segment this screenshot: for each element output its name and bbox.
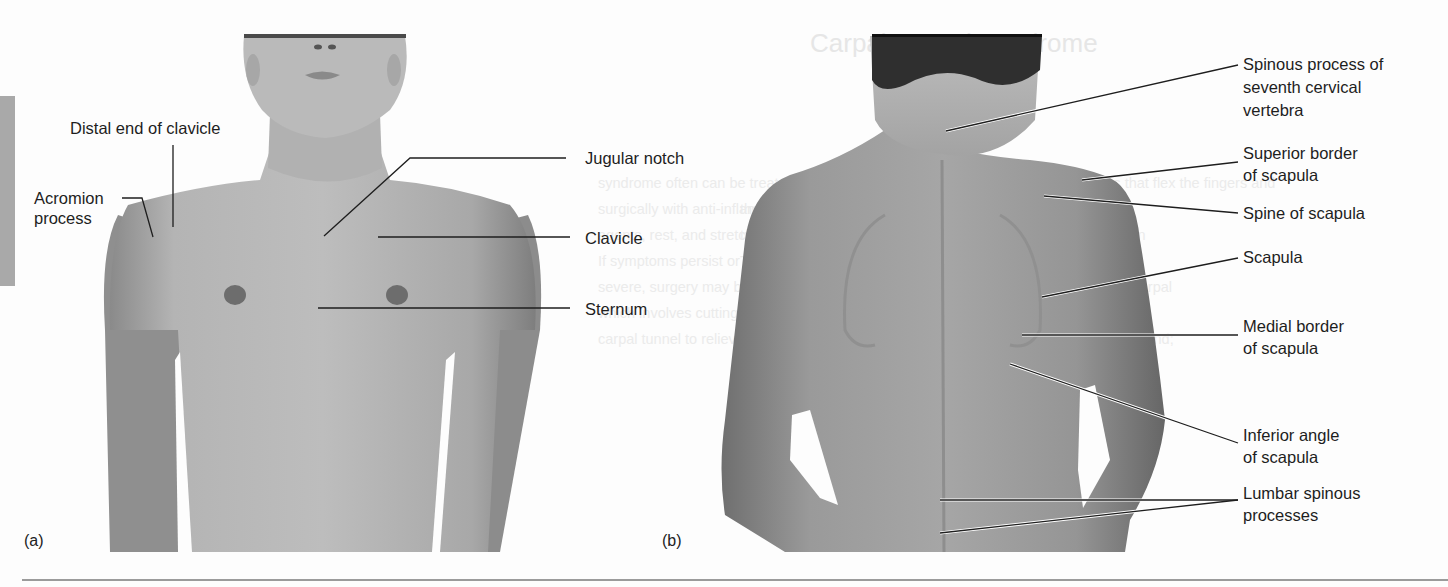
- bottom-divider-rule: [22, 579, 1448, 581]
- label-clavicle: Clavicle: [585, 228, 643, 248]
- label-superior-border-scapula: Superior border of scapula: [1243, 142, 1358, 186]
- label-spinous-process-c7: Spinous process of seventh cervical vert…: [1243, 53, 1383, 122]
- label-lumbar-spinous-processes: Lumbar spinous processes: [1243, 482, 1360, 526]
- label-spine-of-scapula: Spine of scapula: [1243, 203, 1365, 223]
- label-jugular-notch: Jugular notch: [585, 148, 684, 168]
- label-medial-border-scapula: Medial border of scapula: [1243, 315, 1344, 359]
- label-scapula: Scapula: [1243, 247, 1303, 267]
- anatomy-figure: [0, 0, 1448, 587]
- label-distal-end-of-clavicle: Distal end of clavicle: [70, 118, 220, 138]
- leader-superior-border: [1082, 162, 1238, 180]
- panel-tag-b: (b): [662, 532, 682, 550]
- panel-tag-a: (a): [24, 532, 44, 550]
- label-sternum: Sternum: [585, 299, 647, 319]
- label-inferior-angle-scapula: Inferior angle of scapula: [1243, 424, 1339, 468]
- label-acromion-process: Acromion process: [34, 188, 104, 228]
- anterior-torso-photo: [104, 34, 541, 552]
- posterior-torso-photo: [722, 34, 1166, 552]
